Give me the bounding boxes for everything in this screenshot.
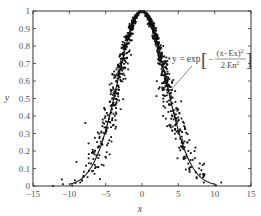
y-tick-label: 0: [26, 181, 31, 191]
formula-annotation: y = exp [ − (x−Ex)2 2 En2 ]: [170, 48, 252, 91]
formula-minus: −: [208, 54, 213, 64]
formula-denominator: 2 En2: [221, 60, 240, 70]
y-axis-ticks: 00.10.20.30.40.50.60.70.80.91: [19, 6, 251, 191]
x-tick-label: −5: [101, 189, 111, 199]
formula-bracket-left: [: [201, 49, 207, 70]
annotation-leader-line: [170, 66, 192, 91]
y-tick-label: 0.2: [19, 146, 30, 156]
y-tick-label: 1: [26, 6, 31, 16]
y-tick-label: 0.8: [19, 41, 31, 51]
x-tick-label: 10: [210, 189, 220, 199]
x-tick-label: 0: [140, 189, 145, 199]
y-tick-label: 0.9: [19, 24, 31, 34]
x-axis-ticks: −15−10−5051015: [26, 11, 256, 199]
plot-frame: [33, 11, 251, 186]
scatter-points: [52, 10, 222, 187]
formula-lhs: y = exp: [172, 54, 201, 64]
y-tick-label: 0.7: [19, 59, 31, 69]
x-tick-label: −10: [62, 189, 77, 199]
expectation-curve: [69, 11, 214, 184]
y-tick-label: 0.3: [19, 129, 31, 139]
y-tick-label: 0.4: [19, 111, 31, 121]
y-tick-label: 0.6: [19, 76, 31, 86]
formula-bracket-right: ]: [246, 49, 252, 70]
x-tick-label: 15: [247, 189, 257, 199]
x-axis-label: x: [137, 203, 143, 214]
y-axis-label: y: [4, 92, 10, 103]
y-tick-label: 0.5: [19, 94, 31, 104]
y-tick-label: 0.1: [19, 164, 30, 174]
cloud-model-chart: −15−10−5051015 00.10.20.30.40.50.60.70.8…: [0, 0, 261, 216]
x-tick-label: 5: [176, 189, 181, 199]
formula-numerator: (x−Ex)2: [217, 48, 244, 58]
